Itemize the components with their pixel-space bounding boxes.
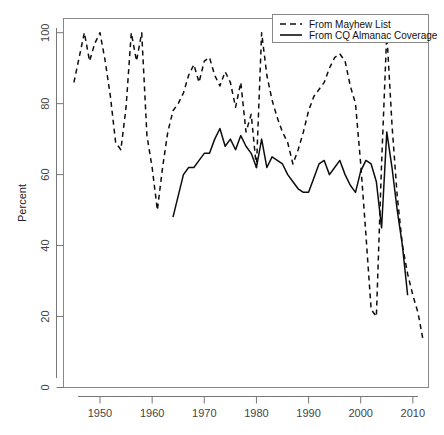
legend-label-cq-almanac: From CQ Almanac Coverage (309, 30, 438, 41)
x-tick-label: 1950 (88, 407, 112, 419)
chart-background (0, 0, 444, 435)
y-tick-label: 100 (39, 24, 51, 42)
x-tick-label: 1990 (296, 407, 320, 419)
x-tick-label: 1970 (192, 407, 216, 419)
x-tick-label: 2000 (348, 407, 372, 419)
y-tick-label: 0 (39, 384, 51, 390)
legend: From Mayhew List From CQ Almanac Coverag… (273, 15, 438, 43)
y-axis-title: Percent (16, 184, 28, 222)
chart-container: 020406080100 195019601970198019902000201… (0, 0, 444, 435)
y-tick-label: 20 (39, 310, 51, 322)
line-chart: 020406080100 195019601970198019902000201… (0, 0, 444, 435)
y-tick-label: 80 (39, 98, 51, 110)
y-tick-label: 60 (39, 168, 51, 180)
legend-label-mayhew-list: From Mayhew List (309, 19, 391, 30)
x-tick-label: 1960 (140, 407, 164, 419)
y-tick-label: 40 (39, 239, 51, 251)
x-tick-label: 2010 (401, 407, 425, 419)
x-tick-label: 1980 (244, 407, 268, 419)
